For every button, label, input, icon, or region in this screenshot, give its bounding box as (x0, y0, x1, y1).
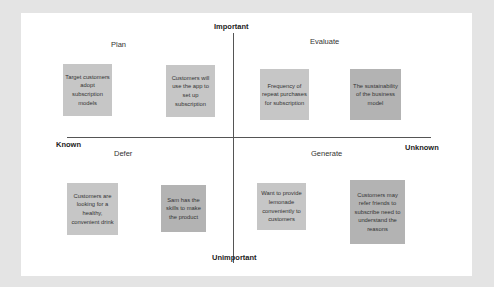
axis-label-unknown: Unknown (405, 143, 439, 152)
sticky-note[interactable]: Customers will use the app to set up sub… (166, 65, 215, 117)
axis-label-known: Known (56, 140, 81, 149)
quadrant-label-plan: Plan (111, 40, 126, 49)
sticky-note[interactable]: Frequency of repeat purchases for subscr… (260, 69, 309, 120)
horizontal-axis (67, 137, 431, 138)
vertical-axis (233, 33, 234, 263)
sticky-note[interactable]: Customers may refer friends to subscribe… (350, 180, 405, 244)
axis-label-unimportant: Unimportant (212, 253, 257, 262)
quadrant-label-defer: Defer (114, 149, 132, 158)
quadrant-label-evaluate: Evaluate (310, 37, 339, 46)
sticky-note[interactable]: Want to provide lemonade conveniently to… (257, 183, 306, 230)
sticky-note[interactable]: Target customers adopt subscription mode… (63, 64, 112, 116)
quadrant-label-generate: Generate (311, 149, 342, 158)
axis-label-important: Important (214, 22, 249, 31)
sticky-note[interactable]: The sustainability of the business model (350, 69, 401, 120)
sticky-note[interactable]: Sam has the skills to make the product (161, 185, 206, 232)
sticky-note[interactable]: Customers are looking for a healthy, con… (67, 183, 118, 235)
